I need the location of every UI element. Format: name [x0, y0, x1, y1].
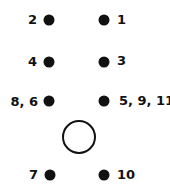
- point-label-2: 2: [28, 13, 37, 26]
- point-dot-8-6: [44, 96, 55, 107]
- point-label-7: 7: [29, 168, 38, 181]
- point-dot-7: [45, 170, 56, 181]
- point-label-4: 4: [28, 55, 37, 68]
- point-label-1: 1: [117, 13, 126, 26]
- point-dot-5-9-11: [99, 96, 110, 107]
- point-dot-2: [44, 15, 55, 26]
- point-dot-4: [44, 57, 55, 68]
- point-label-5-9-11: 5, 9, 11: [119, 94, 170, 107]
- point-dot-10: [99, 170, 110, 181]
- point-dot-3: [99, 57, 110, 68]
- point-label-10: 10: [117, 168, 135, 181]
- center-open-circle: [62, 120, 96, 154]
- point-diagram: 2 1 4 3 8, 6 5, 9, 11 7 10: [0, 0, 170, 188]
- point-label-8-6: 8, 6: [10, 95, 38, 108]
- point-label-3: 3: [117, 54, 126, 67]
- point-dot-1: [99, 15, 110, 26]
